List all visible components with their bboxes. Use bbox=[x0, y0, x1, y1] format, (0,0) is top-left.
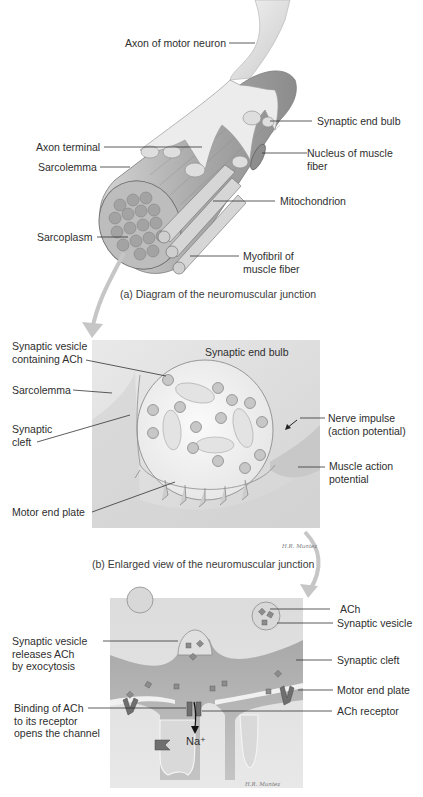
label-line: Nerve impulse bbox=[328, 412, 406, 425]
label-synaptic-cleft-c: Synaptic cleft bbox=[337, 654, 399, 667]
label-line: cleft bbox=[12, 436, 52, 449]
label-line: (action potential) bbox=[328, 425, 406, 438]
label-line: muscle fiber bbox=[243, 263, 300, 276]
label-motor-end-plate-b: Motor end plate bbox=[12, 506, 85, 519]
label-ach-receptor: ACh receptor bbox=[337, 705, 399, 718]
label-line: to its receptor bbox=[14, 715, 100, 728]
artist-signature-c: H.R. Muntez bbox=[245, 781, 280, 787]
label-line: Nucleus of muscle bbox=[307, 147, 393, 160]
label-line: Binding of ACh bbox=[14, 702, 100, 715]
label-axon-terminal: Axon terminal bbox=[36, 141, 100, 154]
label-synaptic-cleft-b: Synaptic cleft bbox=[12, 423, 52, 448]
label-myofibril-of-muscle-fiber: Myofibril of muscle fiber bbox=[243, 250, 300, 275]
caption-panel-a: (a) Diagram of the neuromuscular junctio… bbox=[120, 288, 316, 300]
label-line: fiber bbox=[307, 160, 393, 173]
label-line: Muscle action bbox=[329, 460, 393, 473]
label-ach: ACh bbox=[340, 603, 360, 616]
label-line: by exocytosis bbox=[12, 660, 87, 673]
label-synaptic-vesicle-containing-ach: Synaptic vesicle containing ACh bbox=[12, 340, 87, 365]
label-sodium-ion: Na⁺ bbox=[186, 735, 206, 748]
artist-signature-b: H.R. Muntez bbox=[282, 543, 317, 549]
label-axon-of-motor-neuron: Axon of motor neuron bbox=[125, 37, 226, 50]
label-line: potential bbox=[329, 473, 393, 486]
label-line: containing ACh bbox=[12, 353, 87, 366]
label-nerve-impulse: Nerve impulse (action potential) bbox=[328, 412, 406, 437]
label-mitochondrion: Mitochondrion bbox=[280, 195, 346, 208]
label-sarcoplasm: Sarcoplasm bbox=[37, 231, 92, 244]
label-binding-of-ach: Binding of ACh to its receptor opens the… bbox=[14, 702, 100, 740]
label-line: Synaptic bbox=[12, 423, 52, 436]
label-line: releases ACh bbox=[12, 648, 87, 661]
label-motor-end-plate-c: Motor end plate bbox=[337, 684, 410, 697]
panel-c-art bbox=[88, 587, 333, 788]
label-line: opens the channel bbox=[14, 727, 100, 740]
label-sarcolemma-a: Sarcolemma bbox=[38, 161, 97, 174]
label-synaptic-end-bulb-b: Synaptic end bulb bbox=[205, 346, 288, 359]
label-vesicle-releases-ach: Synaptic vesicle releases ACh by exocyto… bbox=[12, 635, 87, 673]
caption-panel-b: (b) Enlarged view of the neuromuscular j… bbox=[92, 558, 314, 570]
label-line: Myofibril of bbox=[243, 250, 300, 263]
label-nucleus-of-muscle-fiber: Nucleus of muscle fiber bbox=[307, 147, 393, 172]
label-muscle-action-potential: Muscle action potential bbox=[329, 460, 393, 485]
label-line: Synaptic vesicle bbox=[12, 340, 87, 353]
label-line: Synaptic vesicle bbox=[12, 635, 87, 648]
label-synaptic-end-bulb: Synaptic end bulb bbox=[317, 115, 400, 128]
label-synaptic-vesicle-c: Synaptic vesicle bbox=[337, 617, 412, 630]
label-sarcolemma-b: Sarcolemma bbox=[12, 384, 71, 397]
